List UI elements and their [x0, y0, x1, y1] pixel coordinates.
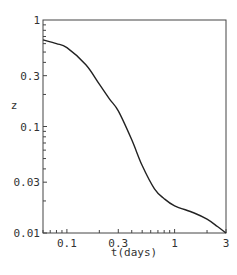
data-line [43, 40, 226, 233]
y-tick-label: 0.01 [14, 227, 41, 240]
line-chart: 10.30.10.030.01 0.10.313 t(days) z [0, 0, 237, 275]
x-tick-label: 3 [223, 237, 230, 250]
y-axis-label: z [11, 99, 18, 112]
x-axis-label: t(days) [111, 246, 157, 259]
x-tick-label: 0.1 [57, 237, 77, 250]
x-tick-label: 1 [171, 237, 178, 250]
y-axis-tick-labels: 10.30.10.030.01 [14, 14, 41, 240]
y-tick-label: 0.1 [20, 121, 40, 134]
y-tick-label: 1 [33, 14, 40, 27]
y-tick-label: 0.3 [20, 70, 40, 83]
x-axis-ticks [43, 229, 226, 233]
y-axis-ticks [43, 25, 47, 233]
y-tick-label: 0.03 [14, 176, 41, 189]
plot-frame [43, 20, 226, 233]
